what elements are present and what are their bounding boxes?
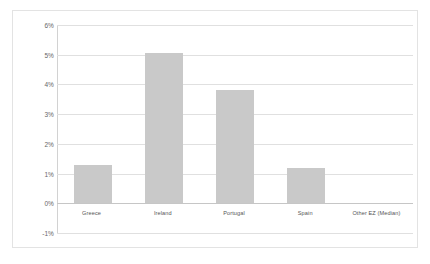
chart-plot-frame: 6% 5% 4% 3% 2% 1% 0% -1% [12, 10, 418, 248]
y-axis-tick-label: 3% [16, 111, 54, 118]
bar-ireland[interactable] [145, 53, 183, 203]
y-axis-tick-label: 4% [16, 81, 54, 88]
bar-slot-other-ez [342, 25, 413, 233]
y-axis-tick-label: 5% [16, 51, 54, 58]
gridline-minus-1 [57, 233, 413, 234]
bar-portugal[interactable] [216, 90, 254, 203]
bar-spain[interactable] [287, 168, 325, 204]
y-axis-tick-label: 1% [16, 170, 54, 177]
plot-area [57, 25, 413, 233]
bar-slot-greece [57, 25, 128, 233]
y-axis-tick-label: -1% [16, 230, 54, 237]
bar-greece[interactable] [74, 165, 112, 204]
chart-container: 6% 5% 4% 3% 2% 1% 0% -1% [0, 0, 430, 264]
bar-slot-ireland [128, 25, 199, 233]
bars-layer [57, 25, 413, 233]
y-axis-tick-label: 6% [16, 22, 54, 29]
y-axis-tick-labels: 6% 5% 4% 3% 2% 1% 0% -1% [13, 25, 54, 233]
y-axis-tick-label: 2% [16, 140, 54, 147]
bar-slot-portugal [199, 25, 270, 233]
y-axis-tick-label: 0% [16, 200, 54, 207]
bar-slot-spain [271, 25, 342, 233]
